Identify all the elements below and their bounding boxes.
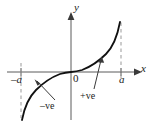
y-axis: [68, 12, 75, 120]
x-axis-label: x: [141, 63, 146, 74]
pos-ve-arrow: [94, 57, 104, 90]
origin-label: 0: [73, 73, 79, 84]
y-axis-label: y: [74, 2, 79, 13]
pos-a-tick-label: a: [119, 74, 125, 85]
graph-figure: y x 0 –a a +ve –ve: [0, 0, 151, 121]
neg-ve-annotation-label: –ve: [40, 101, 54, 111]
neg-a-tick-label: –a: [11, 74, 22, 85]
graph-canvas: [0, 0, 151, 121]
pos-ve-annotation-label: +ve: [80, 91, 95, 101]
y-axis-arrowhead: [68, 12, 75, 20]
